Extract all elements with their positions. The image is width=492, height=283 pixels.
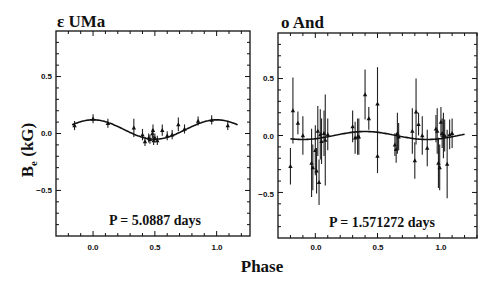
data-point-marker [288, 164, 292, 168]
x-tick-label: 0.0 [310, 243, 322, 252]
y-tick-label: 0.5 [41, 72, 53, 81]
data-point-marker [160, 128, 164, 132]
data-point-marker [196, 119, 200, 123]
data-point-marker [350, 124, 354, 128]
data-point-marker [151, 128, 155, 132]
panel-eps-uma: ε UMa 0.5 0.0 −0.5 0.0 0.5 1.0 P = 5.088… [36, 12, 250, 252]
y-tick-label: 0.5 [263, 74, 275, 83]
data-point-marker [176, 122, 180, 126]
data-point-marker [226, 123, 230, 127]
figure: Be (kG) ε UMa 0.5 0.0 −0.5 0.0 0.5 1.0 P… [0, 0, 492, 283]
panel-title: ε UMa [57, 12, 106, 31]
data-point-marker [413, 158, 417, 162]
data-point-marker [450, 131, 454, 135]
x-tick-label: 0.0 [87, 243, 99, 252]
y-tick-label: −0.5 [36, 186, 52, 195]
data-point-marker [317, 180, 321, 184]
data-point-marker [414, 109, 418, 113]
data-point-marker [143, 139, 147, 143]
period-annotation: P = 1.571272 days [329, 215, 436, 230]
x-tick-label: 1.0 [435, 243, 447, 252]
y-axis-label: Be (kG) [18, 123, 39, 177]
x-tick-label: 1.0 [211, 243, 223, 252]
y-tick-label: −0.5 [258, 190, 274, 199]
y-axis-label-main: B [18, 166, 37, 177]
data-point-marker [445, 162, 449, 166]
data-point-marker [367, 116, 371, 120]
y-tick-label: 0.0 [263, 132, 275, 141]
data-point-marker [150, 131, 154, 135]
y-tick-label: 0.0 [41, 129, 53, 138]
data-point-marker [420, 133, 424, 137]
data-point-marker [425, 146, 429, 150]
x-tick-label: 0.5 [149, 243, 161, 252]
data-point-marker [140, 132, 144, 136]
data-point-marker [416, 122, 420, 126]
panel-title: o And [281, 13, 325, 32]
data-point-marker [132, 126, 136, 130]
data-point-marker [375, 101, 379, 105]
data-point-marker [363, 92, 367, 96]
y-axis-label-unit: (kG) [18, 123, 37, 161]
data-point-marker [410, 129, 414, 133]
svg-text:Be (kG): Be (kG) [18, 123, 39, 177]
data-point-marker [316, 129, 320, 133]
panel-o-and: o And 0.5 0.0 −0.5 0.0 0.5 1.0 P = 1.571… [258, 13, 477, 252]
data-points [72, 114, 230, 146]
data-point-marker [326, 132, 330, 136]
data-points [288, 67, 454, 205]
x-axis-label: Phase [241, 257, 284, 276]
data-point-marker [291, 108, 295, 112]
period-annotation: P = 5.0887 days [109, 213, 202, 228]
x-tick-label: 0.5 [372, 243, 384, 252]
data-point-marker [301, 133, 305, 137]
data-point-marker [296, 121, 300, 125]
data-point-marker [375, 154, 379, 158]
